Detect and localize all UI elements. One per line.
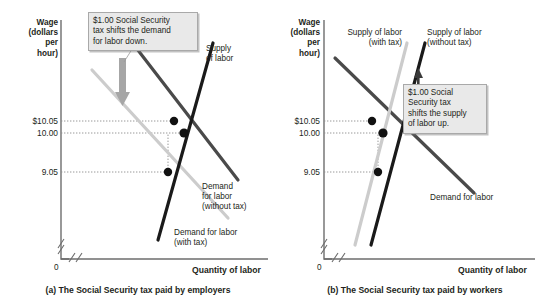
panel-a-ytick-1005: $10.05 [6,116,58,126]
panel-a-ytick-905: 9.05 [6,167,58,177]
panel-a-origin-corner [61,244,69,259]
panel-b-label-supply-without-tax: Supply of labor (without tax) [427,28,482,48]
panel-a-point-1000 [179,128,188,137]
panel-a-y-axis-title: Wage (dollars per hour) [10,18,58,59]
panel-a-caption: (a) The Social Security tax paid by empl… [28,285,248,295]
panel-a-point-1005 [170,117,178,125]
panel-a-label-supply-of-labor: Supply of labor [206,44,233,64]
panel-b-x-axis-title: Quantity of labor [458,265,527,275]
panel-b-label-demand: Demand for labor [430,193,493,203]
panel-a-callout: $1.00 Social Security tax shifts the dem… [88,12,198,51]
panel-b-label-supply-with-tax: Supply of labor (with tax) [328,28,402,48]
panel-b-y-axis-title: Wage (dollars per hour) [276,18,320,59]
panel-b-point-905 [374,168,382,176]
panel-b-ytick-1000: 10.00 [272,128,320,138]
panel-b-x-axis-break [332,253,345,262]
panel-a-ytick-1000: 10.00 [6,128,58,138]
panel-b-ytick-1005: $10.05 [272,116,320,126]
panel-a-x-axis-title: Quantity of labor [192,265,261,275]
figure-root: Wage (dollars per hour) $10.05 10.00 9.0… [0,0,546,305]
panel-b-callout: $1.00 Social Security tax shifts the sup… [403,84,487,134]
panel-a-label-demand-without-tax: Demand for labor (without tax) [202,182,247,213]
panel-b-origin-corner [324,244,332,259]
panel-a-x-axis-break [69,253,82,262]
panel-b-ytick-905: 9.05 [272,167,320,177]
panel-b-caption: (b) The Social Security tax paid by work… [300,285,530,295]
panel-a-label-demand-with-tax: Demand for labor (with tax) [174,228,237,248]
panel-b-point-1005 [368,117,376,125]
panel-b-point-1000 [378,128,387,137]
panel-a-demand-without-tax-curve [134,45,238,180]
panel-b-origin-label: 0 [317,263,322,273]
panel-a-point-905 [164,168,172,176]
panel-a-origin-label: 0 [54,263,59,273]
